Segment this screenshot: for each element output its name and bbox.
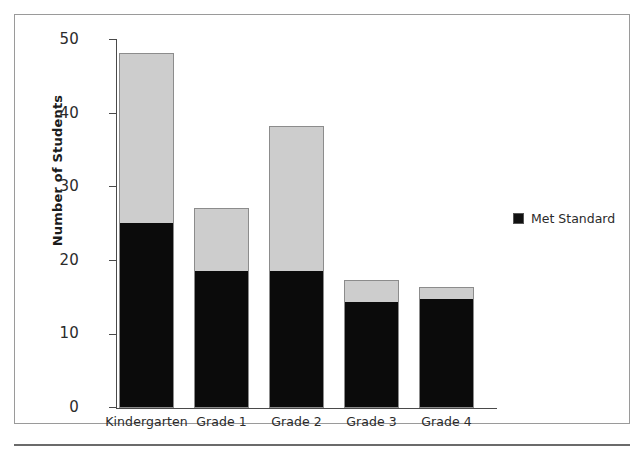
bar-segment-total[interactable] <box>194 208 249 408</box>
bar-group[interactable] <box>194 15 249 408</box>
y-tick-mark <box>109 186 117 187</box>
x-tick-label: Grade 4 <box>405 414 488 429</box>
bar-segment-total[interactable] <box>344 280 399 408</box>
bottom-divider-rule <box>14 444 630 446</box>
y-tick-mark <box>109 39 117 40</box>
bar-group[interactable] <box>119 15 174 408</box>
bar-segment-total[interactable] <box>269 126 324 408</box>
x-tick-label: Grade 1 <box>180 414 263 429</box>
bar-group[interactable] <box>344 15 399 408</box>
y-tick-label: 20 <box>60 251 80 269</box>
y-tick-label: 30 <box>60 177 80 195</box>
x-axis-line <box>116 408 497 409</box>
legend: Met Standard <box>513 211 615 226</box>
plot-area: Number of Students 01020304050 Kindergar… <box>15 15 631 425</box>
x-tick-label: Kindergarten <box>105 414 188 429</box>
bar-segment-met-standard[interactable] <box>270 271 323 407</box>
y-tick-label: 0 <box>69 398 79 416</box>
y-tick-mark <box>109 334 117 335</box>
y-tick-mark <box>109 407 117 408</box>
bar-group[interactable] <box>269 15 324 408</box>
bar-segment-met-standard[interactable] <box>120 223 173 407</box>
y-tick-label: 40 <box>60 104 80 122</box>
legend-swatch-met-standard <box>513 213 524 224</box>
chart-frame: Number of Students 01020304050 Kindergar… <box>14 14 630 424</box>
x-tick-label: Grade 3 <box>330 414 413 429</box>
bar-segment-met-standard[interactable] <box>195 271 248 407</box>
legend-label-met-standard: Met Standard <box>531 211 615 226</box>
y-axis-line <box>116 40 117 409</box>
y-tick-mark <box>109 113 117 114</box>
bar-segment-total[interactable] <box>419 287 474 408</box>
x-tick-label: Grade 2 <box>255 414 338 429</box>
bar-group[interactable] <box>419 15 474 408</box>
y-tick-label: 10 <box>60 324 80 342</box>
bar-segment-total[interactable] <box>119 53 174 408</box>
y-tick-label: 50 <box>60 30 80 48</box>
cropped-text-sliver <box>18 0 418 12</box>
bar-segment-met-standard[interactable] <box>420 299 473 407</box>
bar-segment-met-standard[interactable] <box>345 302 398 407</box>
y-tick-mark <box>109 260 117 261</box>
